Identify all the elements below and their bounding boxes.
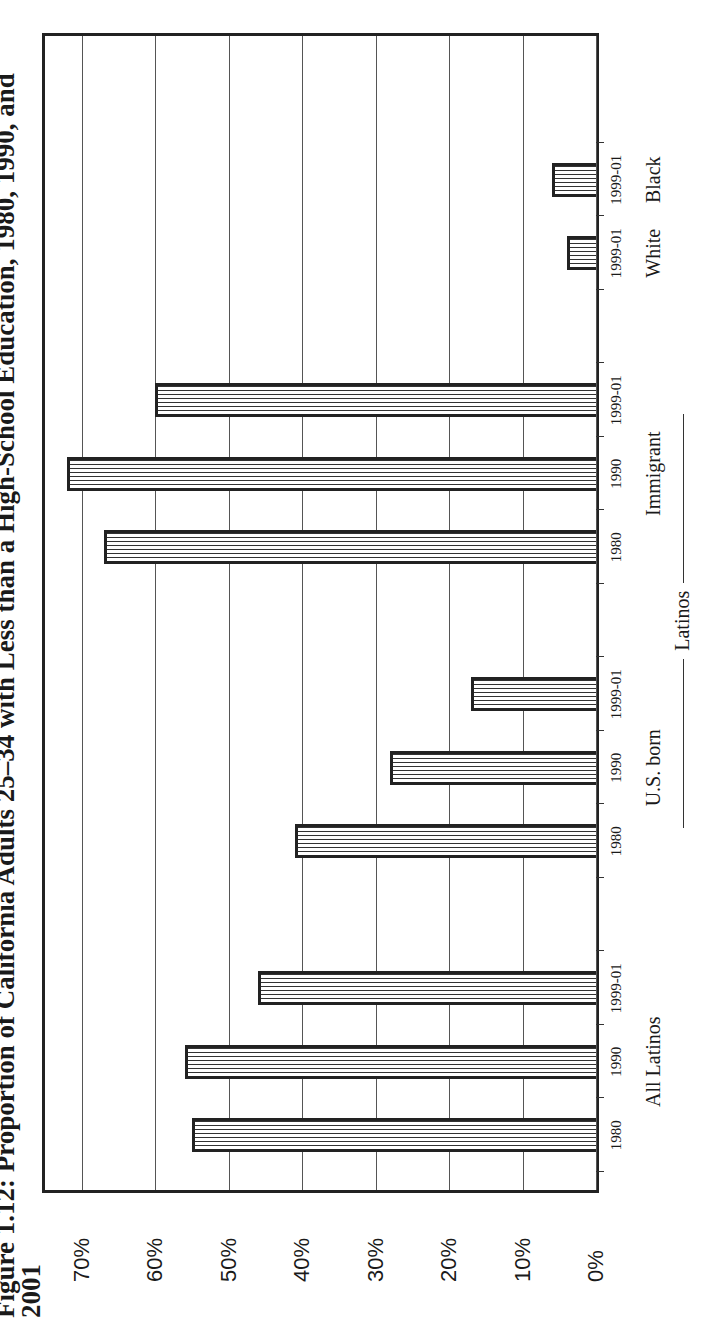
bar — [104, 530, 596, 564]
gridline — [155, 36, 156, 1190]
chart-title: Figure 1.12: Proportion of California Ad… — [0, 0, 44, 1318]
x-tick-mark — [596, 877, 604, 878]
x-tick-label: 1999-01 — [608, 360, 625, 440]
gridline — [82, 36, 83, 1190]
x-tick-mark — [596, 1098, 604, 1099]
x-tick-label: 1980 — [608, 507, 625, 587]
x-tick-label: 1990 — [608, 728, 625, 808]
x-tick-label: 1990 — [608, 1022, 625, 1102]
x-tick-label: 1980 — [608, 1095, 625, 1175]
bar — [155, 383, 596, 417]
gridline — [229, 36, 230, 1190]
x-tick-label: 1999-01 — [608, 654, 625, 734]
title-line-1: Figure 1.12: Proportion of California Ad… — [0, 73, 20, 1318]
bar — [567, 236, 596, 270]
y-tick-label: 60% — [142, 1238, 168, 1282]
chart-figure: Figure 1.12: Proportion of California Ad… — [0, 0, 719, 1318]
x-tick-mark — [596, 951, 604, 952]
x-tick-mark — [596, 804, 604, 805]
gridline — [523, 36, 524, 1190]
x-tick-mark — [596, 363, 604, 364]
x-tick-label: 1999-01 — [608, 213, 625, 293]
x-tick-mark — [596, 436, 604, 437]
plot-area — [42, 33, 599, 1193]
bar — [295, 824, 596, 858]
y-tick-label: 50% — [216, 1238, 242, 1282]
x-tick-mark — [596, 510, 604, 511]
y-tick-label: 0% — [583, 1250, 609, 1282]
gridline — [596, 36, 597, 1190]
latinos-bracket-label: Latinos — [671, 583, 694, 659]
x-tick-mark — [596, 657, 604, 658]
x-tick-mark — [596, 216, 604, 217]
x-tick-label: 1990 — [608, 434, 625, 514]
x-tick-mark — [596, 730, 604, 731]
group-label: All Latinos — [642, 1016, 665, 1107]
bar — [185, 1045, 596, 1079]
bar — [552, 163, 596, 197]
group-label: Black — [642, 156, 665, 203]
bar — [192, 1118, 596, 1152]
gridline — [302, 36, 303, 1190]
y-tick-label: 70% — [69, 1238, 95, 1282]
y-tick-label: 40% — [289, 1238, 315, 1282]
bar — [67, 457, 596, 491]
x-tick-mark — [596, 142, 604, 143]
y-tick-label: 30% — [363, 1238, 389, 1282]
group-label: U.S. born — [642, 729, 665, 806]
x-tick-label: 1980 — [608, 801, 625, 881]
x-tick-mark — [596, 1024, 604, 1025]
x-tick-label: 1999-01 — [608, 140, 625, 220]
x-tick-mark — [596, 1171, 604, 1172]
x-tick-mark — [596, 289, 604, 290]
bar — [471, 677, 596, 711]
gridline — [449, 36, 450, 1190]
title-line-2: 2001 — [18, 0, 44, 1318]
x-tick-mark — [596, 583, 604, 584]
y-tick-label: 10% — [510, 1238, 536, 1282]
group-label: White — [642, 229, 665, 278]
x-tick-label: 1999-01 — [608, 948, 625, 1028]
bar — [258, 971, 596, 1005]
gridline — [376, 36, 377, 1190]
group-label: Immigrant — [642, 432, 665, 516]
bar — [390, 751, 596, 785]
y-tick-label: 20% — [436, 1238, 462, 1282]
